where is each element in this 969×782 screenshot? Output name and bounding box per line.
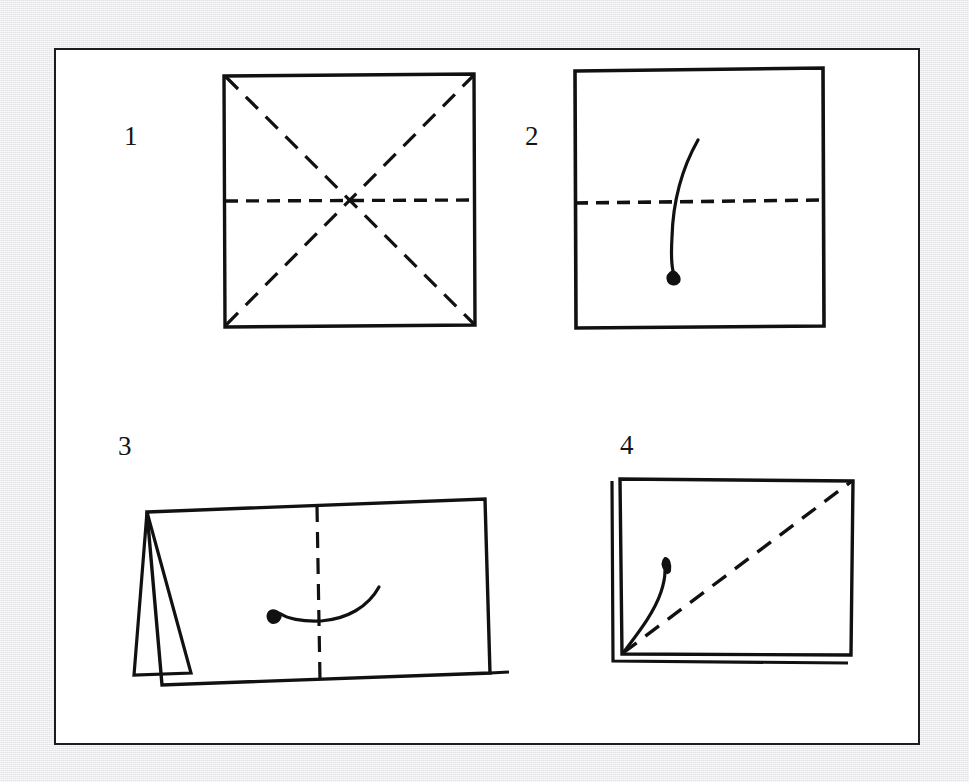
step-1-figure <box>218 68 480 338</box>
paper-outline-square <box>575 68 824 328</box>
fold-arrow-up-shaft <box>623 571 665 653</box>
step-1: 1 <box>56 50 489 380</box>
fold-arrow-down-head <box>667 271 679 285</box>
step-3: 3 <box>56 380 489 747</box>
step-3-figure <box>111 485 511 710</box>
step-4: 4 <box>489 380 922 747</box>
fold-arrow-up-head <box>663 558 671 573</box>
step-2-diagram <box>569 62 837 342</box>
step-4-diagram <box>604 465 894 745</box>
crease-diagonal-bl-tr <box>623 481 852 653</box>
crease-horizontal-center <box>575 200 824 203</box>
page-background: 1 2 <box>0 0 969 782</box>
figure-panel: 1 2 <box>54 48 920 745</box>
step-1-number: 1 <box>124 123 138 150</box>
fold-arrow-left-shaft <box>281 587 379 621</box>
step-4-figure <box>604 465 894 745</box>
paper-back-flap <box>134 512 191 675</box>
crease-vertical-center <box>317 506 320 680</box>
step-2: 2 <box>489 50 922 380</box>
fold-arrow-left-head <box>268 610 281 623</box>
step-1-diagram <box>218 68 480 338</box>
step-2-number: 2 <box>525 123 539 150</box>
step-3-number: 3 <box>118 433 132 460</box>
fold-arrow-down-shaft <box>671 140 698 271</box>
step-3-diagram <box>111 485 511 710</box>
step-4-number: 4 <box>620 432 634 459</box>
step-2-figure <box>569 62 837 342</box>
